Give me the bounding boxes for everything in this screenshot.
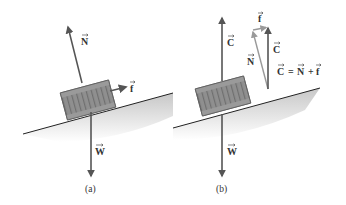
panel-a: N f W (a)	[23, 27, 173, 195]
equation-equals: =	[288, 66, 294, 77]
vector-equation: C = N + f	[277, 64, 321, 77]
equation-lhs: C	[277, 66, 284, 77]
triangle-friction-label: f	[258, 13, 262, 24]
equation-plus: +	[308, 66, 314, 77]
equation-f: f	[316, 66, 320, 77]
normal-force-label: N	[81, 36, 89, 47]
vector-triangle: f N C	[247, 12, 280, 89]
free-body-diagram: N f W (a) C W	[0, 0, 346, 205]
friction-force-arrow	[110, 87, 126, 91]
caption-b: (b)	[216, 184, 227, 195]
weight-label: W	[227, 146, 237, 157]
normal-force-arrow	[68, 27, 82, 83]
triangle-friction-arrow	[253, 28, 266, 31]
contact-force-label: C	[227, 37, 234, 48]
triangle-normal-arrow	[253, 32, 268, 89]
caption-a: (a)	[85, 184, 96, 195]
triangle-contact-label: C	[273, 44, 280, 55]
equation-n: N	[297, 66, 305, 77]
friction-force-label: f	[130, 83, 134, 94]
triangle-normal-label: N	[247, 56, 255, 67]
weight-label: W	[95, 146, 105, 157]
panel-b: C W f N C C = N	[173, 12, 321, 195]
